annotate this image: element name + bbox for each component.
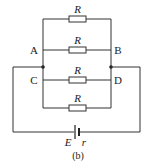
node-d-label: D	[114, 74, 122, 86]
resistor-3	[69, 77, 86, 83]
node-b-label: B	[114, 44, 121, 56]
circuit-diagram: R R A B R C D R E r (b)	[0, 0, 149, 166]
resistor-4-label: R	[73, 92, 81, 104]
resistor-1-label: R	[73, 3, 81, 15]
resistor-4	[69, 105, 86, 111]
node-c-label: C	[30, 74, 37, 86]
resistor-2	[69, 47, 86, 53]
branch-4: R	[43, 92, 111, 111]
resistor-1	[69, 16, 86, 22]
resistor-3-label: R	[73, 64, 81, 76]
internal-resistance-label: r	[82, 136, 87, 148]
branch-1: R	[43, 3, 111, 22]
node-a-label: A	[30, 44, 38, 56]
figure-caption: (b)	[72, 150, 84, 162]
emf-label: E	[64, 136, 72, 148]
battery: E r	[64, 125, 87, 148]
resistor-2-label: R	[73, 34, 81, 46]
branch-2: R A B	[30, 34, 122, 56]
